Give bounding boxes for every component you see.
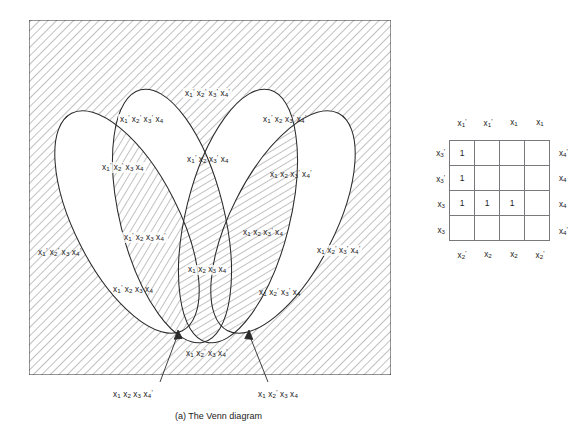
kmap-bottom-label: x2 [501,250,527,259]
kmap-right-label: x4 [559,200,571,209]
figure-root: x1'x2'x3'x4'x1'x2'x3'x4x1'x2x3'x4'x1'x2x… [0,0,571,438]
kmap-cell[interactable] [500,166,525,191]
kmap-bottom-label: x2' [527,250,553,260]
venn-region-label: x1x2x3'x4 [243,228,283,237]
kmap-top-label: x1' [475,118,501,128]
kmap-row [450,216,550,241]
kmap-cell[interactable]: 1 [450,191,475,216]
venn-region-label: x1'x2'x3x4 [100,162,146,173]
venn-region-label: x1'x2x3'x4 [187,155,229,164]
venn-diagram-svg [0,0,420,438]
kmap-cell[interactable] [525,166,550,191]
kmap-cell[interactable] [525,191,550,216]
kmap-cell[interactable] [525,216,550,241]
kmap-row: 111 [450,191,550,216]
venn-region-label: x1x2'x3'x4 [259,288,301,297]
kmap-cell[interactable] [525,141,550,166]
kmap-bottom-label: x2 [475,250,501,259]
kmap-bottom-label: x2' [449,250,475,260]
kmap-cell[interactable] [450,216,475,241]
venn-region-label: x1'x2x3'x4' [263,115,306,124]
kmap-cell[interactable]: 1 [475,191,500,216]
kmap-row: 1 [450,141,550,166]
kmap-top-label: x1 [501,118,527,127]
venn-region-label: x1x2x3x4 [186,265,228,275]
kmap-top-label: x1 [527,118,553,127]
venn-region-label: x1'x2'x3'x4' [183,88,232,99]
kmap-top-label: x1' [449,118,475,128]
kmap-left-label: x3 [425,226,445,235]
karnaugh-map-panel: x1'x1'x1x1 x3'x3'x3x3 x4'x4x4x4' x2'x2x2… [420,100,571,300]
venn-callout-label: x1x2x3x4' [113,390,153,399]
kmap-left-label: x3' [425,148,445,158]
kmap-left-label: x3' [425,174,445,184]
venn-region-label: x1x2'x3x4' [186,349,228,358]
kmap-cell[interactable] [475,141,500,166]
venn-region-label: x1'x2'x3x4' [38,248,81,257]
venn-region-label: x1'x2x3x4' [122,232,168,243]
kmap-right-label: x4' [559,226,571,236]
kmap-cell[interactable]: 1 [450,166,475,191]
kmap-cell[interactable] [475,166,500,191]
venn-region-label: x1'x2'x3'x4 [118,114,165,125]
venn-region-label: x1x2'x3'x4' [315,245,362,256]
kmap-cell[interactable]: 1 [450,141,475,166]
kmap-right-label: x4 [559,174,571,183]
venn-diagram-panel: x1'x2'x3'x4'x1'x2'x3'x4x1'x2x3'x4'x1'x2x… [0,0,420,438]
kmap-cell[interactable] [475,216,500,241]
kmap-left-label: x3 [425,200,445,209]
kmap-grid[interactable]: 11111 [449,140,550,241]
venn-callout-label: x1x2'x3x4 [258,390,298,399]
venn-region-label: x1x2x3'x4' [270,170,312,179]
kmap-cell[interactable] [500,141,525,166]
kmap-cell[interactable] [500,216,525,241]
kmap-right-label: x4' [559,148,571,158]
kmap-row: 1 [450,166,550,191]
kmap-cell[interactable]: 1 [500,191,525,216]
venn-region-label: x1'x2x3x4 [113,285,153,294]
venn-caption: (a) The Venn diagram [175,411,262,421]
